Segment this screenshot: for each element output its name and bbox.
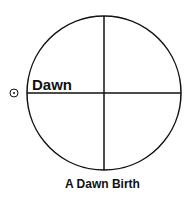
diagram-caption: A Dawn Birth xyxy=(0,177,191,191)
dawn-label: Dawn xyxy=(32,77,72,92)
chart-wheel xyxy=(0,0,191,199)
sun-icon xyxy=(9,88,19,98)
